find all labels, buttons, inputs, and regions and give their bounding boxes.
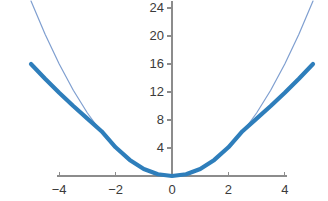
y-tick-label: 24 [138,0,164,15]
chart-container: 4812162024−4−2024 [0,0,328,201]
x-tick-label: 4 [272,182,298,197]
x-tick-label: 0 [159,182,185,197]
plot-area [0,0,328,201]
x-tick-label: −2 [103,182,129,197]
axis-group [57,1,287,176]
y-tick-label: 20 [138,28,164,43]
y-tick-label: 12 [138,84,164,99]
y-tick-label: 4 [138,140,164,155]
y-tick-label: 16 [138,56,164,71]
x-tick-label: −4 [46,182,72,197]
x-tick-label: 2 [215,182,241,197]
y-tick-label: 8 [138,112,164,127]
